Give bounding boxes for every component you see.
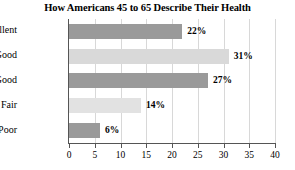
bar-value-label: 14% [146, 100, 165, 110]
plot-area: 22%31%27%14%6% [69, 19, 275, 143]
bar-row: 31% [69, 44, 275, 69]
x-tick-mark [249, 144, 250, 148]
category-label: Excellent [0, 24, 17, 35]
bar-chart: How Americans 45 to 65 Describe Their He… [0, 0, 295, 170]
x-tick-mark [95, 144, 96, 148]
bar-row: 27% [69, 69, 275, 94]
gridline [275, 19, 276, 143]
x-tick-mark [275, 144, 276, 148]
bar[interactable] [69, 123, 100, 138]
bar-value-label: 27% [213, 75, 232, 85]
bar-row: 22% [69, 19, 275, 44]
bar[interactable] [69, 49, 229, 64]
x-tick-mark [172, 144, 173, 148]
bar-value-label: 31% [234, 51, 253, 61]
x-tick-mark [198, 144, 199, 148]
category-label: Good [0, 74, 17, 85]
bar-row: 6% [69, 118, 275, 143]
category-label: Fair [0, 99, 17, 110]
x-tick-mark [121, 144, 122, 148]
x-tick-mark [146, 144, 147, 148]
chart-title: How Americans 45 to 65 Describe Their He… [0, 2, 295, 13]
x-tick-mark [69, 144, 70, 148]
bar-value-label: 22% [187, 26, 206, 36]
bar-row: 14% [69, 93, 275, 118]
bar[interactable] [69, 98, 141, 113]
bar[interactable] [69, 24, 182, 39]
category-label: Very Good [0, 49, 17, 60]
bar[interactable] [69, 73, 208, 88]
bar-value-label: 6% [105, 125, 119, 135]
x-tick-mark [224, 144, 225, 148]
x-tick-label: 40 [260, 150, 290, 160]
category-label: Poor [0, 124, 17, 135]
